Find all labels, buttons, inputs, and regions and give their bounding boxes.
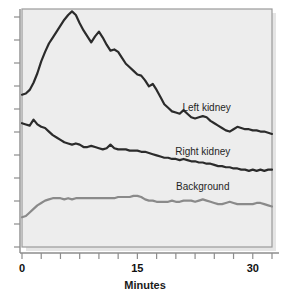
x-axis-title: Minutes [124, 279, 166, 291]
x-axis-tick-label: 15 [131, 262, 143, 274]
x-axis-tick-label: 0 [19, 262, 25, 274]
chart-canvas: 01530 Left kidneyRight kidneyBackground … [0, 0, 287, 295]
series-label-left-kidney: Left kidney [182, 102, 230, 113]
x-axis-tick-label: 30 [247, 262, 259, 274]
renogram-chart: 01530 Left kidneyRight kidneyBackground … [0, 0, 287, 295]
series-label-right-kidney: Right kidney [175, 146, 230, 157]
series-label-background: Background [176, 181, 229, 192]
